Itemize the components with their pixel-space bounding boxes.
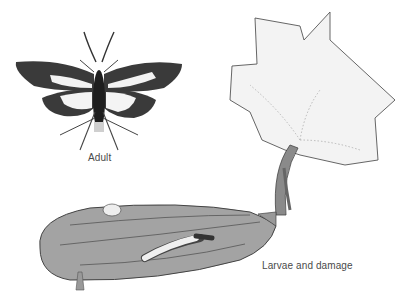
cucumber-fruit-icon <box>40 204 276 290</box>
leaf-icon <box>230 12 395 215</box>
moth-icon <box>16 32 182 150</box>
larvae-damage-label: Larvae and damage <box>262 260 353 271</box>
illustration <box>0 0 402 303</box>
adult-label: Adult <box>88 152 111 163</box>
